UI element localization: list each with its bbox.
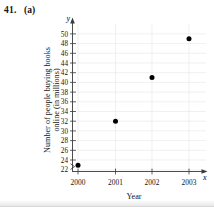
data-point [150,75,155,80]
x-axis-symbol: x [202,173,207,182]
scatter-plot: 22 24 26 28 30 32 34 36 38 40 42 44 46 4… [0,0,214,207]
y-axis-tick-labels: 22 24 26 28 30 32 34 36 38 40 42 44 46 4… [61,31,69,175]
y-tick-label: 22 [61,166,69,174]
x-tick-label: 2001 [108,178,123,187]
data-point [187,36,192,41]
data-point [76,163,81,168]
page-edge-shadow [0,200,214,207]
y-axis-title-line2: online (in millions) [52,68,61,131]
x-tick-label: 2000 [71,178,86,187]
y-tick-label: 50 [61,31,69,39]
y-tick-label: 24 [61,157,69,165]
y-tick-label: 42 [61,69,69,77]
y-tick-label: 34 [61,108,69,116]
horizontal-gridlines [78,34,206,170]
y-tick-label: 26 [61,147,69,155]
x-tick-label: 2003 [182,178,197,187]
y-tick-label: 40 [61,79,69,87]
figure-page: 41. (a) [0,0,214,207]
y-tick-label: 32 [61,118,69,126]
y-axis-symbol: y [66,14,71,23]
y-axis-ticks [70,34,76,160]
y-tick-label: 38 [61,89,69,97]
y-tick-label: 48 [61,40,69,48]
x-axis-tick-labels: 2000 2001 2002 2003 [71,178,197,187]
y-tick-label: 30 [61,128,69,136]
y-tick-label: 36 [61,98,69,106]
y-tick-label: 28 [61,137,69,145]
x-tick-label: 2002 [145,178,160,187]
y-axis-title: Number of people buying books online (in… [43,47,61,153]
y-axis-title-line1: Number of people buying books [43,47,52,153]
y-tick-label: 46 [61,50,69,58]
y-axis [70,18,75,173]
data-point [113,119,118,124]
vertical-gridlines [78,24,189,172]
y-tick-label: 44 [61,60,69,68]
